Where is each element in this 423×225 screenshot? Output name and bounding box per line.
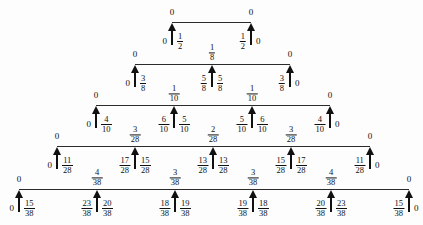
- fraction: 228: [208, 126, 219, 145]
- fraction: 2038: [316, 199, 327, 218]
- fraction-numerator: 2: [208, 126, 219, 135]
- arrow-left-label: 0: [126, 73, 131, 91]
- fraction-denominator: 38: [92, 178, 103, 188]
- whole-number: 0: [368, 132, 373, 141]
- whole-number: 0: [375, 161, 380, 170]
- arrow-right-label: 38: [140, 73, 146, 93]
- above-line-fraction: 18: [209, 42, 215, 62]
- fraction-numerator: 3: [130, 126, 141, 135]
- arrow-left-label: 410: [315, 114, 326, 134]
- fraction: 510: [179, 115, 190, 134]
- up-arrow-icon: [131, 65, 140, 87]
- fraction-numerator: 3: [286, 126, 297, 135]
- above-line-fraction: 338: [248, 167, 259, 187]
- level-line: [19, 189, 409, 190]
- arrow-left-label: 38: [279, 73, 285, 93]
- up-arrow-icon: [170, 106, 179, 128]
- arrow-shaft: [369, 151, 371, 169]
- fraction-denominator: 38: [24, 208, 35, 218]
- arrow-shaft: [408, 194, 410, 212]
- whole-number: 0: [407, 175, 412, 184]
- arrow-shaft: [18, 194, 20, 212]
- arrow-shaft: [289, 69, 291, 87]
- fraction-denominator: 28: [218, 165, 229, 175]
- fraction: 328: [286, 126, 297, 145]
- arrow-left-label: 0: [87, 114, 92, 132]
- above-line-zero: 0: [249, 2, 254, 20]
- fraction: 110: [169, 85, 180, 104]
- arrow-left-label: 1538: [394, 198, 405, 218]
- fraction: 410: [315, 115, 326, 134]
- fraction-denominator: 38: [258, 208, 269, 218]
- arrow-left-label: 1838: [160, 198, 171, 218]
- above-line-fraction: 110: [169, 83, 180, 103]
- fraction-denominator: 38: [336, 208, 347, 218]
- whole-number: 0: [249, 8, 254, 17]
- level-line: [96, 105, 330, 106]
- fraction-numerator: 5: [217, 74, 223, 83]
- arrow-right-label: 1728: [296, 155, 307, 175]
- fraction: 2338: [336, 199, 347, 218]
- up-arrow-icon: [92, 106, 101, 128]
- fraction-denominator: 10: [257, 124, 268, 134]
- fraction: 1938: [238, 199, 249, 218]
- fraction: 1728: [120, 156, 131, 175]
- fraction-denominator: 10: [247, 94, 258, 104]
- arrow-right-label: 1128: [62, 155, 73, 175]
- arrow-shaft: [290, 151, 292, 169]
- arrow-left-label: 0: [48, 155, 53, 173]
- fraction-numerator: 23: [336, 199, 347, 208]
- fraction-numerator: 6: [159, 115, 170, 124]
- up-arrow-icon: [93, 190, 102, 212]
- above-line-fraction: 228: [208, 124, 219, 144]
- arrow-left-label: 0: [163, 31, 168, 49]
- fraction-denominator: 38: [160, 208, 171, 218]
- arrow-right-label: 510: [179, 114, 190, 134]
- whole-number: 0: [126, 79, 131, 88]
- fraction-numerator: 5: [201, 74, 207, 83]
- arrow-shaft: [174, 194, 176, 212]
- above-line-fraction: 328: [130, 124, 141, 144]
- fraction-numerator: 18: [258, 199, 269, 208]
- fraction-denominator: 38: [316, 208, 327, 218]
- fraction: 1938: [180, 199, 191, 218]
- arrow-right-label: 0: [295, 73, 300, 91]
- fraction-numerator: 4: [101, 115, 112, 124]
- fraction-denominator: 10: [169, 94, 180, 104]
- fraction-numerator: 17: [120, 156, 131, 165]
- fraction-denominator: 28: [276, 165, 287, 175]
- whole-number: 0: [48, 161, 53, 170]
- fraction: 58: [217, 74, 223, 93]
- arrow-right-label: 1328: [218, 155, 229, 175]
- arrow-left-label: 58: [201, 73, 207, 93]
- whole-number: 0: [17, 175, 22, 184]
- above-line-fraction: 438: [326, 167, 337, 187]
- fraction-denominator: 8: [209, 53, 215, 63]
- fraction-numerator: 1: [240, 32, 246, 41]
- fraction: 438: [326, 169, 337, 188]
- fraction-denominator: 38: [170, 178, 181, 188]
- fraction-denominator: 2: [177, 41, 183, 51]
- arrow-shaft: [211, 69, 213, 87]
- arrow-right-label: 1538: [24, 198, 35, 218]
- arrow-right-label: 0: [335, 114, 340, 132]
- fraction-numerator: 5: [179, 115, 190, 124]
- fraction-numerator: 15: [140, 156, 151, 165]
- fraction: 328: [130, 126, 141, 145]
- diagram-canvas: 0001212001800385858380011011000410610510…: [0, 0, 423, 225]
- up-arrow-icon: [131, 147, 140, 169]
- fraction: 110: [247, 85, 258, 104]
- whole-number: 0: [55, 132, 60, 141]
- fraction-numerator: 19: [180, 199, 191, 208]
- fraction-numerator: 20: [102, 199, 113, 208]
- fraction-numerator: 13: [218, 156, 229, 165]
- fraction: 58: [201, 74, 207, 93]
- up-arrow-icon: [53, 147, 62, 169]
- arrow-left-label: 12: [240, 31, 246, 51]
- fraction-numerator: 6: [257, 115, 268, 124]
- fraction: 438: [92, 169, 103, 188]
- arrow-right-label: 2038: [102, 198, 113, 218]
- arrow-left-label: 2038: [316, 198, 327, 218]
- fraction-denominator: 28: [140, 165, 151, 175]
- fraction-numerator: 17: [296, 156, 307, 165]
